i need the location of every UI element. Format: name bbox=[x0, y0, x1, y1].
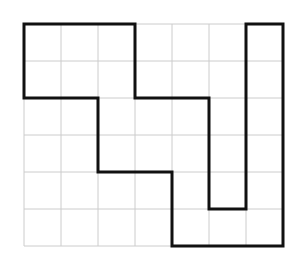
grid-lines bbox=[24, 24, 283, 246]
grid-figure bbox=[0, 0, 304, 276]
